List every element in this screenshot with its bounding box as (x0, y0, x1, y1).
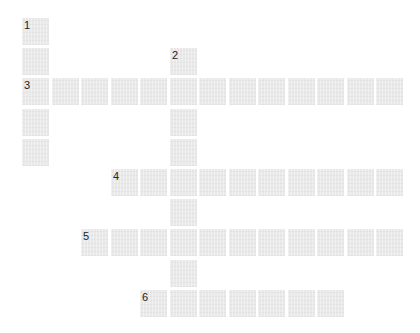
crossword-cell[interactable] (288, 290, 315, 317)
crossword-cell[interactable] (258, 78, 285, 105)
crossword-cell[interactable] (52, 78, 79, 105)
crossword-cell[interactable] (170, 109, 197, 136)
crossword-cell[interactable] (170, 229, 197, 256)
crossword-cell[interactable] (22, 109, 49, 136)
crossword-cell[interactable] (199, 78, 226, 105)
crossword-cell[interactable] (170, 290, 197, 317)
crossword-cell[interactable]: 1 (22, 18, 49, 45)
crossword-cell[interactable] (170, 260, 197, 287)
crossword-cell[interactable] (258, 290, 285, 317)
crossword-cell[interactable] (229, 78, 256, 105)
crossword-cell[interactable] (288, 169, 315, 196)
crossword-cell[interactable] (140, 229, 167, 256)
crossword-cell[interactable]: 4 (111, 169, 138, 196)
crossword-cell[interactable] (229, 169, 256, 196)
crossword-cell[interactable] (170, 139, 197, 166)
crossword-cell[interactable] (347, 78, 374, 105)
crossword-cell[interactable] (317, 290, 344, 317)
crossword-grid: 132456 (0, 0, 420, 333)
crossword-cell[interactable] (376, 229, 403, 256)
crossword-cell[interactable] (140, 78, 167, 105)
crossword-cell[interactable] (199, 290, 226, 317)
crossword-cell[interactable] (111, 229, 138, 256)
crossword-cell[interactable] (170, 199, 197, 226)
clue-number: 3 (24, 79, 30, 91)
clue-number: 6 (142, 291, 148, 303)
crossword-cell[interactable] (170, 169, 197, 196)
crossword-cell[interactable] (288, 229, 315, 256)
crossword-cell[interactable] (229, 229, 256, 256)
crossword-cell[interactable]: 5 (81, 229, 108, 256)
crossword-cell[interactable] (258, 169, 285, 196)
crossword-cell[interactable] (347, 229, 374, 256)
crossword-cell[interactable]: 6 (140, 290, 167, 317)
crossword-cell[interactable] (22, 139, 49, 166)
clue-number: 4 (113, 170, 119, 182)
crossword-cell[interactable] (199, 229, 226, 256)
crossword-cell[interactable] (376, 78, 403, 105)
crossword-cell[interactable] (199, 169, 226, 196)
crossword-cell[interactable]: 2 (170, 48, 197, 75)
crossword-cell[interactable] (317, 78, 344, 105)
crossword-cell[interactable] (347, 169, 374, 196)
crossword-cell[interactable] (22, 48, 49, 75)
crossword-cell[interactable] (81, 78, 108, 105)
crossword-cell[interactable]: 3 (22, 78, 49, 105)
crossword-cell[interactable] (317, 169, 344, 196)
crossword-cell[interactable] (170, 78, 197, 105)
clue-number: 5 (83, 230, 89, 242)
crossword-cell[interactable] (317, 229, 344, 256)
crossword-cell[interactable] (229, 290, 256, 317)
crossword-cell[interactable] (258, 229, 285, 256)
crossword-cell[interactable] (288, 78, 315, 105)
crossword-cell[interactable] (140, 169, 167, 196)
crossword-cell[interactable] (376, 169, 403, 196)
crossword-cell[interactable] (111, 78, 138, 105)
clue-number: 1 (24, 19, 30, 31)
clue-number: 2 (172, 49, 178, 61)
